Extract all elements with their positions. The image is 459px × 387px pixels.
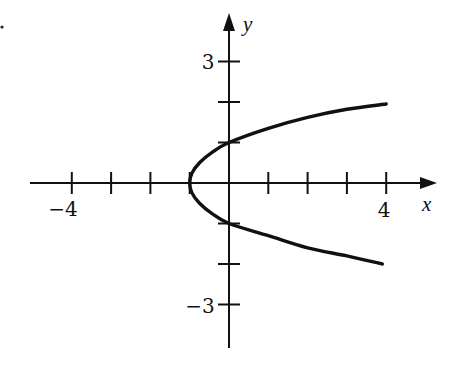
y-axis-label: y	[241, 12, 253, 36]
y-tick-label-3: 3	[202, 50, 215, 74]
x-axis-arrow-icon	[420, 177, 437, 189]
x-axis-label: x	[421, 192, 432, 216]
x-tick-label-4: 4	[378, 198, 391, 222]
x-tick-label-neg4: −4	[48, 197, 77, 221]
y-tick-label-neg3: −3	[185, 294, 214, 318]
parabola-curve	[190, 104, 387, 264]
stray-dot	[0, 25, 3, 28]
parabola-graph: −4 4 3 −3 x y	[0, 0, 459, 387]
x-axis	[30, 172, 437, 194]
y-axis-arrow-icon	[223, 13, 235, 31]
y-axis	[218, 13, 240, 348]
